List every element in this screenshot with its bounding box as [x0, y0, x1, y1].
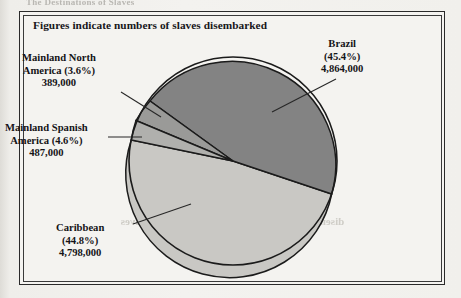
pie-label-mna-value: 389,000	[22, 77, 96, 90]
pie-label-brazil-value: 4,864,000	[321, 63, 363, 76]
scanned-page: The Destinations of Slaves Figures indic…	[0, 0, 461, 298]
pie-slices	[126, 57, 337, 278]
pie-label-caribbean: Caribbean (44.8%) 4,798,000	[56, 222, 104, 260]
pie-label-mna-name-2: America (3.6%)	[22, 65, 96, 78]
pie-label-msa-value: 487,000	[5, 147, 88, 160]
pie-label-mainland-spanish-america: Mainland Spanish America (4.6%) 487,000	[5, 122, 88, 160]
pie-label-caribbean-name: Caribbean	[56, 222, 104, 235]
pie-label-msa-name-2: America (4.6%)	[5, 135, 88, 148]
pie-label-brazil-name: Brazil	[321, 38, 363, 51]
pie-label-mainland-north-america: Mainland North America (3.6%) 389,000	[22, 52, 96, 90]
pie-label-mna-name: Mainland North	[22, 52, 96, 65]
pie-label-brazil: Brazil (45.4%) 4,864,000	[321, 38, 363, 76]
pie-label-caribbean-value: 4,798,000	[56, 247, 104, 260]
pie-label-brazil-percent: (45.4%)	[321, 51, 363, 64]
pie-label-caribbean-percent: (44.8%)	[56, 235, 104, 248]
pie-label-msa-name: Mainland Spanish	[5, 122, 88, 135]
